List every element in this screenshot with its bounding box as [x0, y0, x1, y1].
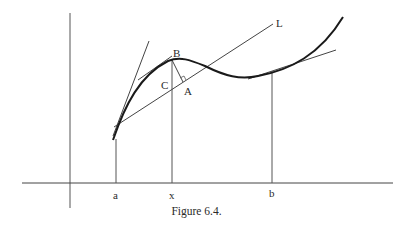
tangent-near-B: [138, 56, 172, 80]
tangent-at-a: [113, 41, 149, 136]
function-curve: [113, 17, 343, 140]
label-a: a: [113, 190, 118, 201]
diagram-svg: [0, 0, 393, 230]
label-C: C: [161, 80, 168, 91]
label-A: A: [184, 86, 192, 97]
secant-line-L: [114, 24, 273, 127]
label-x: x: [169, 190, 175, 201]
label-L: L: [276, 18, 283, 29]
label-B: B: [173, 48, 180, 59]
figure-6-4: L B C A a x b Figure 6.4.: [0, 0, 393, 230]
label-b: b: [269, 188, 275, 199]
figure-caption: Figure 6.4.: [0, 205, 393, 217]
perpendicular-BA: [172, 60, 183, 82]
